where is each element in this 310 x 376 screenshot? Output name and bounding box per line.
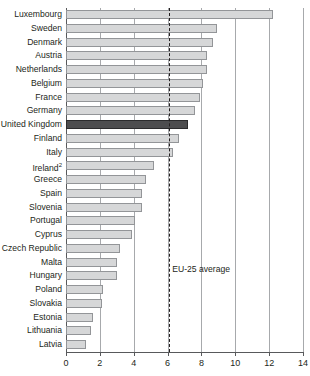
category-label-cyprus: Cyprus xyxy=(35,229,62,239)
bar-row xyxy=(66,228,303,242)
bar-row xyxy=(66,8,303,22)
gridline-14 xyxy=(303,8,304,352)
bar-row xyxy=(66,77,303,91)
bar-row xyxy=(66,311,303,325)
category-label-austria: Austria xyxy=(35,50,62,60)
category-label-italy: Italy xyxy=(46,147,62,157)
tick-label-8: 8 xyxy=(199,358,204,368)
bar-hungary xyxy=(66,271,117,280)
bar-row xyxy=(66,338,303,352)
bar-poland xyxy=(66,285,103,294)
bar-row xyxy=(66,242,303,256)
category-label-greece: Greece xyxy=(34,174,62,184)
category-label-hungary: Hungary xyxy=(30,270,62,280)
tick-label-14: 14 xyxy=(298,358,308,368)
bar-portugal xyxy=(66,216,135,225)
bar-belgium xyxy=(66,79,203,88)
tick-mark-10 xyxy=(235,352,236,356)
category-label-latvia: Latvia xyxy=(39,339,62,349)
tick-mark-8 xyxy=(201,352,202,356)
bar-sweden xyxy=(66,24,217,33)
bar-row xyxy=(66,118,303,132)
tick-mark-12 xyxy=(269,352,270,356)
bar-row xyxy=(66,132,303,146)
bar-estonia xyxy=(66,313,93,322)
bar-denmark xyxy=(66,38,213,47)
bar-row xyxy=(66,201,303,215)
bar-row xyxy=(66,214,303,228)
category-label-slovakia: Slovakia xyxy=(30,298,62,308)
tick-mark-0 xyxy=(66,352,67,356)
category-label-spain: Spain xyxy=(40,188,62,198)
category-label-france: France xyxy=(35,92,62,102)
bar-row xyxy=(66,104,303,118)
eu-25-average-label: EU-25 average xyxy=(172,264,230,274)
bar-malta xyxy=(66,258,117,267)
bar-finland xyxy=(66,134,179,143)
category-label-belgium: Belgium xyxy=(31,78,62,88)
bar-row xyxy=(66,63,303,77)
bar-ireland xyxy=(66,161,154,170)
bar-germany xyxy=(66,106,195,115)
category-label-united-kingdom: United Kingdom xyxy=(1,119,62,129)
bar-row xyxy=(66,22,303,36)
footnote-marker: 2 xyxy=(59,162,62,168)
bar-greece xyxy=(66,175,146,184)
tick-label-10: 10 xyxy=(230,358,240,368)
bar-row xyxy=(66,297,303,311)
tick-label-0: 0 xyxy=(63,358,68,368)
bar-row xyxy=(66,49,303,63)
tick-label-2: 2 xyxy=(97,358,102,368)
bar-czech-republic xyxy=(66,244,120,253)
bar-row xyxy=(66,283,303,297)
bar-chart: LuxembourgSwedenDenmarkAustriaNetherland… xyxy=(0,0,310,376)
bar-lithuania xyxy=(66,326,91,335)
bar-row xyxy=(66,324,303,338)
tick-mark-14 xyxy=(303,352,304,356)
category-label-lithuania: Lithuania xyxy=(27,325,62,335)
tick-label-4: 4 xyxy=(131,358,136,368)
eu-25-average-line xyxy=(169,8,170,352)
category-label-portugal: Portugal xyxy=(30,215,62,225)
category-label-poland: Poland xyxy=(35,284,62,294)
bar-netherlands xyxy=(66,65,207,74)
category-label-estonia: Estonia xyxy=(33,312,62,322)
category-label-denmark: Denmark xyxy=(27,37,62,47)
bar-cyprus xyxy=(66,230,132,239)
tick-mark-6 xyxy=(168,352,169,356)
bar-italy xyxy=(66,148,173,157)
category-axis-labels: LuxembourgSwedenDenmarkAustriaNetherland… xyxy=(0,8,62,352)
category-label-malta: Malta xyxy=(41,257,62,267)
tick-mark-4 xyxy=(134,352,135,356)
category-label-ireland: Ireland2 xyxy=(32,160,62,173)
category-label-netherlands: Netherlands xyxy=(16,64,62,74)
category-label-slovenia: Slovenia xyxy=(29,202,62,212)
bar-austria xyxy=(66,51,207,60)
plot-area xyxy=(66,8,303,352)
bar-row xyxy=(66,91,303,105)
bar-row xyxy=(66,187,303,201)
category-label-luxembourg: Luxembourg xyxy=(14,9,62,19)
bar-slovakia xyxy=(66,299,102,308)
tick-label-6: 6 xyxy=(165,358,170,368)
bar-spain xyxy=(66,189,142,198)
category-label-finland: Finland xyxy=(34,133,62,143)
bar-latvia xyxy=(66,340,86,349)
tick-mark-2 xyxy=(100,352,101,356)
tick-label-12: 12 xyxy=(264,358,274,368)
category-label-sweden: Sweden xyxy=(31,23,62,33)
category-label-czech-republic: Czech Republic xyxy=(2,243,62,253)
bar-row xyxy=(66,146,303,160)
bar-slovenia xyxy=(66,203,142,212)
category-label-germany: Germany xyxy=(27,105,62,115)
bar-france xyxy=(66,93,200,102)
bar-row xyxy=(66,173,303,187)
bar-row xyxy=(66,36,303,50)
bar-row xyxy=(66,159,303,173)
